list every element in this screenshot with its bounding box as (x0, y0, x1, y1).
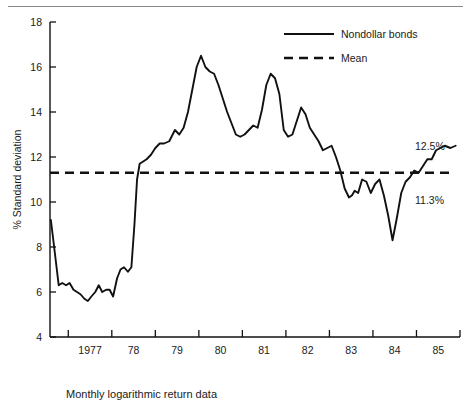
x-tick-label: 1977 (78, 344, 102, 356)
line-chart-plot: 4681012141618 19777879808182838485 % Sta… (0, 0, 471, 412)
y-tick-label: 18 (30, 16, 42, 28)
legend-label-nondollar-bonds: Nondollar bonds (341, 28, 417, 40)
x-tick-label: 79 (171, 344, 183, 356)
nondollar-bonds-series-line (51, 56, 456, 301)
x-tick-label: 85 (432, 344, 444, 356)
x-tick-label: 80 (215, 344, 227, 356)
x-tick-label: 84 (389, 344, 401, 356)
chart-axes (50, 22, 460, 337)
annotation-mean-value: 11.3% (415, 194, 444, 206)
x-tick-label: 83 (345, 344, 357, 356)
x-tick-label: 82 (302, 344, 314, 356)
y-axis-title: % Standard deviation (11, 129, 23, 229)
chart-legend: Nondollar bonds Mean (284, 28, 417, 64)
y-tick-label: 8 (36, 241, 42, 253)
chart-figure: 4681012141618 19777879808182838485 % Sta… (0, 0, 471, 412)
y-tick-label: 12 (30, 151, 42, 163)
y-tick-label: 14 (30, 106, 42, 118)
y-axis-ticks: 4681012141618 (30, 16, 56, 343)
legend-label-mean: Mean (341, 52, 367, 64)
y-tick-label: 4 (36, 331, 42, 343)
x-tick-label: 81 (258, 344, 270, 356)
chart-caption: Monthly logarithmic return data (66, 388, 218, 400)
y-tick-label: 10 (30, 196, 42, 208)
annotation-end-value: 12.5% (415, 140, 445, 152)
y-tick-label: 6 (36, 286, 42, 298)
x-axis-ticks: 19777879808182838485 (68, 330, 460, 356)
y-tick-label: 16 (30, 61, 42, 73)
x-tick-label: 78 (128, 344, 140, 356)
